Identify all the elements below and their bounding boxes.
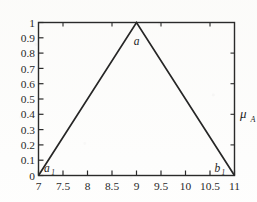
annotation-left-vertex-base: a: [44, 162, 50, 174]
y-tick-label: 0: [29, 170, 35, 182]
y-tick-label: 0.6: [21, 78, 36, 90]
chart-canvas: 1 0.9 0.8 0.7 0.6 0.5 0.4 0.3 0.2 0.1 0 …: [0, 0, 257, 202]
y-axis-ticks: [39, 23, 44, 176]
x-tick-label: 7.5: [56, 180, 71, 192]
y-tick-label: 0.8: [21, 47, 36, 59]
y-tick-label: 0.9: [21, 32, 36, 44]
x-tick-label: 8: [85, 180, 91, 192]
x-tick-label: 8.5: [105, 180, 120, 192]
y-tick-label: 0.7: [21, 63, 36, 75]
annotation-right-vertex-subscript: 1: [221, 168, 225, 177]
annotation-left-vertex-subscript: 1: [51, 168, 55, 177]
x-axis-ticks: [39, 171, 235, 176]
y-tick-label: 0.1: [21, 154, 36, 166]
y-tick-label: 0.5: [21, 93, 36, 105]
annotation-left-vertex: a 1: [44, 162, 55, 177]
y-tick-label: 1: [29, 17, 35, 29]
x-tick-label: 7: [36, 180, 42, 192]
x-tick-label: 9.5: [154, 180, 169, 192]
x-axis-tick-labels: 7 7.5 8 8.5 9 9.5 10 10.5 11: [36, 180, 241, 192]
annotation-right-vertex-base: b: [215, 162, 221, 174]
y-tick-label: 0.4: [21, 108, 36, 120]
mu-axis-note: μ A: [239, 106, 256, 124]
annotation-apex-base: a: [134, 35, 140, 47]
annotation-apex: a: [134, 35, 140, 47]
x-tick-label: 11: [229, 180, 240, 192]
x-tick-label: 10.5: [200, 180, 220, 192]
mu-subscript: A: [250, 115, 256, 124]
annotation-right-vertex: b 1: [215, 162, 226, 177]
y-tick-label: 0.3: [21, 124, 36, 136]
y-axis-tick-labels: 1 0.9 0.8 0.7 0.6 0.5 0.4 0.3 0.2 0.1 0: [21, 17, 36, 182]
fuzzy-membership-chart: 1 0.9 0.8 0.7 0.6 0.5 0.4 0.3 0.2 0.1 0 …: [0, 0, 257, 202]
x-tick-label: 10: [180, 180, 192, 192]
y-tick-label: 0.2: [21, 139, 36, 151]
mu-symbol: μ: [239, 106, 247, 121]
x-tick-label: 9: [134, 180, 140, 192]
